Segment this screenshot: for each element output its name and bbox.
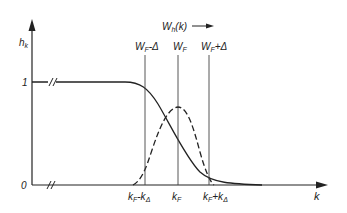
plateau-break-icon [49,78,57,86]
y-axis-label: hk [19,37,29,49]
label-wf: WF [173,41,187,53]
y-tick-1: 1 [22,77,28,88]
x-tick-kf-plus-kdelta: kF+kΔ [203,191,228,203]
diagram: Wh(k) WF-Δ WF WF+Δ hk 1 0 kF-kΔ kF kF+kΔ… [0,0,347,213]
x-tick-kf: kF [172,191,182,203]
step-curve [32,82,262,185]
label-wf-minus-delta: WF-Δ [135,41,159,53]
x-tick-kf-minus-kdelta: kF-kΔ [128,191,151,203]
y-axis-arrow-icon [29,19,36,31]
label-wf-plus-delta: WF+Δ [201,41,228,53]
x-axis-label: k [314,190,320,202]
x-axis-arrow-icon [316,182,328,189]
y-tick-0: 0 [21,180,27,191]
top-annotation: Wh(k) [162,21,187,33]
top-arrow-icon [206,24,214,29]
